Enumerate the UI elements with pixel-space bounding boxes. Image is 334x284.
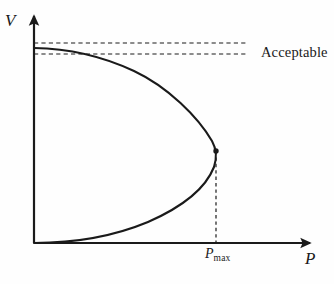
y-axis-label: V: [5, 12, 15, 29]
acceptable-band-label: Acceptable: [261, 45, 328, 60]
pmax-label: Pmax: [205, 247, 231, 264]
acceptable-band-lines: [34, 43, 248, 54]
pv-nose-curve-figure: V P Pmax Acceptable: [0, 0, 334, 284]
pmax-symbol: P: [205, 246, 214, 261]
figure-canvas: [0, 0, 334, 284]
pmax-subscript: max: [214, 253, 231, 263]
nose-point-marker: [213, 148, 218, 153]
x-axis-label: P: [305, 250, 315, 267]
pv-nose-curve: [34, 48, 216, 243]
